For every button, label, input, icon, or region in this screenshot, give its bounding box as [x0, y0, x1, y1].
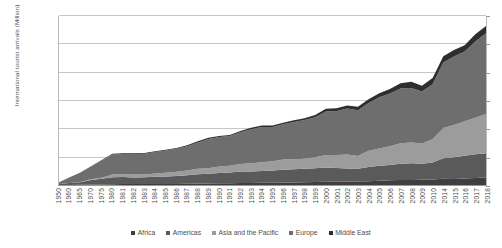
y-axis-tick-mark [486, 186, 490, 187]
legend-swatch-icon [289, 231, 293, 235]
x-axis-tick-label: 1991 [226, 188, 233, 203]
x-axis-tick-label: 1995 [269, 188, 276, 203]
plot-area: 02505007501,0001,2501,500 [58, 16, 487, 186]
x-axis-tick-label: 1997 [291, 188, 298, 203]
legend-item-africa[interactable]: Africa [131, 229, 155, 236]
x-axis-tick-label: 1999 [312, 188, 319, 203]
legend-label: Middle East [335, 229, 371, 236]
y-axis-tick-mark [486, 129, 490, 130]
x-axis-tick-label: 2018 [484, 188, 491, 203]
x-axis-tick-label: 1998 [301, 188, 308, 203]
x-axis-tick-label: 2006 [387, 188, 394, 203]
legend-label: Americas [173, 229, 201, 236]
x-axis-tick-labels: 1950196019651970197519801981198219831984… [58, 188, 487, 226]
y-axis-title: International tourist arrivals (Million) [13, 0, 20, 138]
x-axis-tick-label: 2004 [366, 188, 373, 203]
x-axis-tick-label: 1984 [151, 188, 158, 203]
legend-swatch-icon [166, 231, 170, 235]
x-axis-tick-label: 1970 [87, 188, 94, 203]
x-axis-tick-label: 2010 [430, 188, 437, 203]
x-axis-tick-label: 2008 [409, 188, 416, 203]
stacked-area-series [59, 16, 486, 185]
x-axis-tick-label: 2005 [376, 188, 383, 203]
legend-swatch-icon [329, 231, 333, 235]
x-axis-tick-label: 1975 [98, 188, 105, 203]
x-axis-tick-label: 1980 [108, 188, 115, 203]
x-axis-tick-label: 2017 [473, 188, 480, 203]
x-axis-tick-label: 1982 [130, 188, 137, 203]
y-axis-tick-mark [486, 73, 490, 74]
x-axis-tick-label: 1990 [216, 188, 223, 203]
x-axis-tick-label: 2016 [462, 188, 469, 203]
x-axis-tick-label: 1992 [237, 188, 244, 203]
chart-legend: AfricaAmericasAsia and the PacificEurope… [0, 229, 502, 236]
x-axis-tick-label: 1985 [162, 188, 169, 203]
legend-item-middle-east[interactable]: Middle East [329, 229, 371, 236]
x-axis-tick-label: 1988 [194, 188, 201, 203]
legend-label: Asia and the Pacific [219, 229, 279, 236]
legend-label: Europe [296, 229, 318, 236]
legend-swatch-icon [131, 231, 135, 235]
y-axis-tick-mark [486, 158, 490, 159]
x-axis-tick-label: 1983 [141, 188, 148, 203]
legend-swatch-icon [212, 231, 216, 235]
tourist-arrivals-area-chart: International tourist arrivals (Million)… [0, 0, 502, 248]
x-axis-tick-label: 1987 [183, 188, 190, 203]
legend-item-europe[interactable]: Europe [289, 229, 317, 236]
y-axis-tick-mark [486, 101, 490, 102]
x-axis-tick-label: 1960 [65, 188, 72, 203]
x-axis-tick-label: 2002 [344, 188, 351, 203]
x-axis-tick-label: 2001 [334, 188, 341, 203]
x-axis-tick-label: 1996 [280, 188, 287, 203]
y-axis-tick-mark [486, 44, 490, 45]
x-axis-tick-label: 2009 [419, 188, 426, 203]
x-axis-tick-label: 1965 [76, 188, 83, 203]
x-axis-tick-label: 1989 [205, 188, 212, 203]
x-axis-tick-label: 1981 [119, 188, 126, 203]
x-axis-tick-label: 1950 [55, 188, 62, 203]
x-axis-tick-label: 2003 [355, 188, 362, 203]
y-axis-tick-mark [486, 16, 490, 17]
x-axis-tick-label: 2000 [323, 188, 330, 203]
x-axis-tick-label: 1986 [173, 188, 180, 203]
x-axis-tick-label: 1993 [248, 188, 255, 203]
legend-label: Africa [138, 229, 155, 236]
x-axis-tick-label: 2014 [441, 188, 448, 203]
x-axis-tick-label: 2007 [398, 188, 405, 203]
legend-item-asia-and-the-pacific[interactable]: Asia and the Pacific [212, 229, 278, 236]
x-axis-tick-label: 2015 [452, 188, 459, 203]
legend-item-americas[interactable]: Americas [166, 229, 201, 236]
x-axis-tick-label: 1994 [258, 188, 265, 203]
